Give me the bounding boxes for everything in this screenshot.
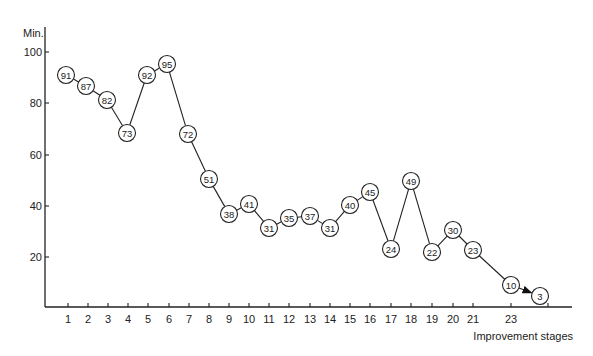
x-tick-label: 18 (405, 313, 417, 325)
data-point: 95 (159, 56, 176, 73)
data-point: 45 (362, 184, 379, 201)
x-tick-label: 12 (283, 313, 295, 325)
x-tick-label: 15 (344, 313, 356, 325)
point-value-label: 87 (81, 81, 92, 92)
data-point: 40 (342, 197, 359, 214)
point-value-label: 30 (448, 225, 459, 236)
y-tick-label: 60 (30, 149, 42, 161)
point-value-label: 41 (244, 199, 255, 210)
line-segment (459, 236, 467, 244)
y-tick-label: 100 (24, 46, 42, 58)
data-point: 24 (383, 241, 400, 258)
point-value-label: 73 (122, 128, 133, 139)
point-value-label: 82 (102, 95, 113, 106)
point-value-label: 40 (345, 200, 356, 211)
point-value-label: 72 (183, 129, 194, 140)
data-point: 41 (241, 196, 258, 213)
point-value-label: 51 (204, 174, 215, 185)
x-tick-label: 1 (65, 313, 71, 325)
line-segment (357, 197, 363, 201)
point-value-label: 3 (537, 291, 542, 302)
x-tick-label: 7 (186, 313, 192, 325)
point-value-label: 92 (142, 70, 153, 81)
x-tick-label: 19 (426, 313, 438, 325)
line-segment (277, 222, 282, 224)
data-point: 31 (261, 220, 278, 237)
data-point: 49 (403, 173, 420, 190)
point-value-label: 95 (162, 59, 173, 70)
point-value-label: 35 (284, 213, 295, 224)
point-value-label: 37 (305, 211, 316, 222)
line-segment (336, 211, 345, 221)
arrow-segment (519, 288, 532, 293)
y-tick-label: 40 (30, 200, 42, 212)
x-tick-label: 2 (85, 313, 91, 325)
point-value-label: 91 (61, 70, 72, 81)
x-tick-label: 16 (364, 313, 376, 325)
data-point: 23 (465, 242, 482, 259)
x-tick-label: 6 (166, 313, 172, 325)
line-segment (393, 189, 408, 241)
x-tick-label: 4 (125, 313, 131, 325)
line-segment (438, 236, 447, 246)
line-segment (93, 91, 100, 96)
data-point: 35 (281, 210, 298, 227)
y-axis-label: Min. (23, 27, 44, 39)
point-value-label: 24 (386, 244, 397, 255)
line-segment (317, 220, 322, 223)
line-segment (237, 208, 242, 210)
point-value-label: 49 (406, 176, 417, 187)
x-tick-label: 9 (226, 313, 232, 325)
line-segment (213, 186, 225, 206)
data-point: 30 (445, 222, 462, 239)
data-point: 82 (99, 92, 116, 109)
x-tick-label: 20 (447, 313, 459, 325)
data-point: 3 (532, 288, 549, 305)
point-value-label: 38 (224, 209, 235, 220)
point-value-label: 31 (264, 223, 275, 234)
x-tick-label: 5 (145, 313, 151, 325)
line-segment (169, 72, 185, 126)
point-value-label: 45 (365, 187, 376, 198)
x-tick-label: 11 (263, 313, 274, 325)
x-tick-label: 13 (304, 313, 316, 325)
y-tick-label: 20 (30, 251, 42, 263)
data-point: 91 (58, 67, 75, 84)
data-point: 73 (119, 125, 136, 142)
data-point: 31 (322, 220, 339, 237)
x-tick-label: 17 (385, 313, 397, 325)
x-tick-label: 10 (243, 313, 255, 325)
data-point: 10 (503, 277, 520, 294)
axes: 2040608010012345678910111213141516171819… (24, 27, 572, 325)
line-segment (130, 83, 144, 125)
data-point: 38 (221, 206, 238, 223)
point-value-label: 31 (325, 223, 336, 234)
line-chart: 2040608010012345678910111213141516171819… (0, 0, 593, 356)
line-segment (373, 200, 388, 241)
x-tick-label: 21 (467, 313, 479, 325)
line-segment (479, 256, 504, 279)
data-point: 22 (424, 244, 441, 261)
point-value-label: 22 (427, 247, 438, 258)
x-tick-label: 3 (105, 313, 111, 325)
point-value-label: 10 (506, 280, 517, 291)
data-point: 92 (139, 67, 156, 84)
line-segment (413, 189, 429, 244)
data-point: 37 (302, 208, 319, 225)
line-segment (254, 211, 263, 222)
data-point: 51 (201, 171, 218, 188)
y-tick-label: 80 (30, 97, 42, 109)
data-points: 9187827392957251384131353731404524492230… (58, 56, 549, 305)
line-segment (192, 142, 206, 172)
line-segment (154, 68, 159, 71)
x-tick-label: 14 (324, 313, 336, 325)
series-line (73, 68, 531, 293)
line-segment (73, 79, 78, 82)
x-tick-label: 23 (505, 313, 517, 325)
data-point: 87 (78, 78, 95, 95)
data-point: 72 (180, 126, 197, 143)
x-tick-label: 8 (206, 313, 212, 325)
x-axis-label: Improvement stages (473, 330, 573, 342)
point-value-label: 23 (468, 245, 479, 256)
line-segment (111, 107, 122, 125)
